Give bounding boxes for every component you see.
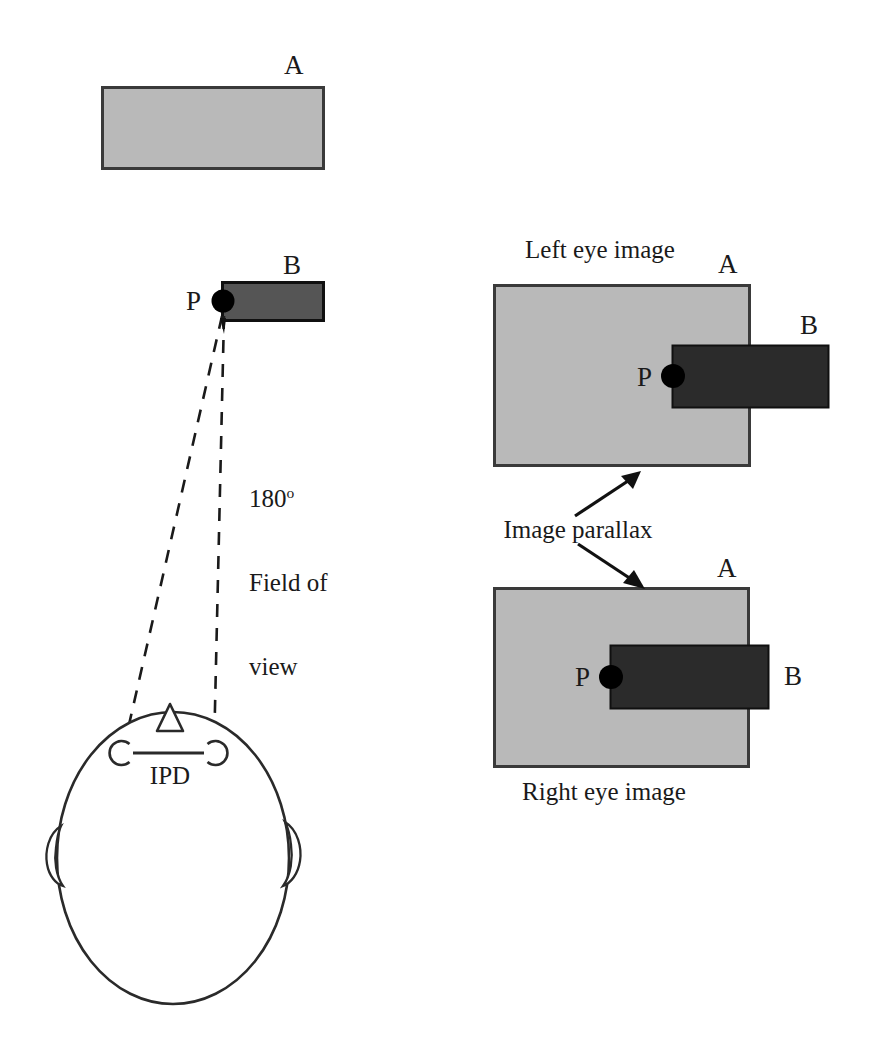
right-eye-point-p-label: P [575, 662, 590, 692]
parallax-arrow-up [575, 471, 641, 516]
scene-object-b-rect [223, 283, 324, 321]
right-eye-point-p-marker [599, 665, 623, 689]
diagram-canvas: A B P 180o Field of view IPD Left eye im… [0, 0, 869, 1063]
fov-text-line-1: Field of [249, 569, 327, 597]
fov-line-left [123, 316, 222, 751]
fov-degrees-line: 180o [249, 485, 327, 513]
left-eye-object-b-label: B [800, 310, 818, 340]
fov-degree-symbol: o [287, 484, 295, 501]
field-of-view-annotation: 180o Field of view [249, 429, 327, 737]
image-parallax-label: Image parallax [503, 516, 652, 544]
scene-point-p-label: P [186, 286, 201, 316]
scene-object-a-rect [103, 88, 324, 169]
scene-object-b-label: B [283, 250, 301, 280]
left-eye-object-b-rect [673, 346, 829, 408]
left-eye-image-caption: Left eye image [525, 236, 675, 264]
fov-line-right [214, 316, 224, 751]
scene-object-a-label: A [284, 50, 304, 80]
right-eye-image-caption: Right eye image [522, 778, 686, 806]
left-eye-point-p-marker [661, 364, 685, 388]
scene-point-p-marker [212, 290, 235, 313]
right-eye-object-a-label: A [717, 553, 737, 583]
right-eye-object-b-label: B [784, 661, 802, 691]
ipd-label: IPD [150, 762, 190, 790]
diagram-vector-layer [0, 0, 869, 1063]
parallax-arrow-down [578, 544, 645, 589]
head-outline [57, 712, 289, 1004]
fov-text-line-2: view [249, 653, 327, 681]
left-eye-point-p-label: P [637, 362, 652, 392]
right-eye-object-b-rect [611, 646, 769, 709]
left-eye-object-a-label: A [718, 249, 738, 279]
fov-degrees-value: 180 [249, 485, 287, 512]
